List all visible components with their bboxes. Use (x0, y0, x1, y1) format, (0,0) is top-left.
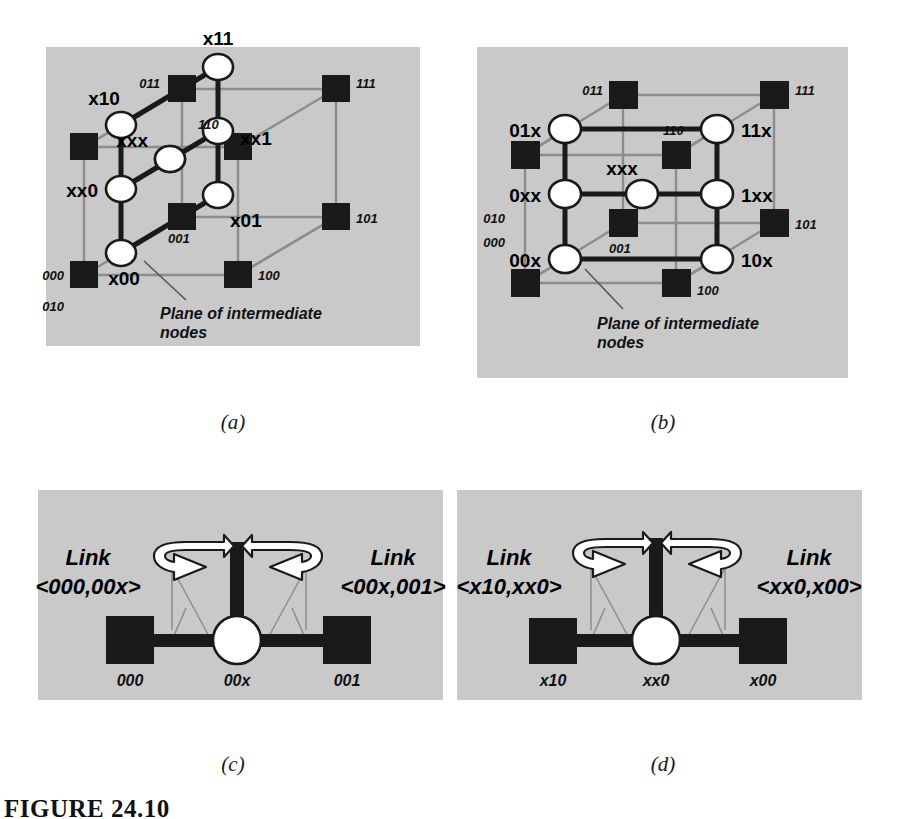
label-011: 011 (139, 76, 160, 91)
intermediate-nodes-b (549, 115, 733, 273)
rotation-arrow-left-icon-d (573, 532, 653, 577)
terminal-node-010 (511, 141, 540, 169)
terminal-node-001 (609, 209, 638, 237)
label-110: 110 (198, 117, 219, 132)
link-name-right-c: <00x,001> (340, 574, 445, 599)
terminal-node-000 (70, 261, 98, 288)
label-001: 001 (609, 241, 631, 256)
plane-note-leader-a (144, 261, 186, 300)
label-01x: 01x (509, 120, 541, 141)
label-111: 111 (356, 76, 376, 91)
intermediate-node-00x (549, 245, 581, 273)
panel-c-diagram: Link <000,00x> Link <00x,001> 000 00x 00… (38, 490, 443, 700)
link-name-right-d: <xx0,x00> (756, 574, 861, 599)
node-label-right-d: x00 (749, 672, 777, 689)
node-label-right-c: 001 (334, 672, 361, 689)
intermediate-node-xxx-top (155, 146, 185, 172)
label-010: 010 (42, 299, 64, 314)
plane-note-line1-a: Plane of intermediate (160, 305, 322, 322)
label-000: 000 (483, 235, 505, 250)
intermediate-node-01x (549, 115, 581, 143)
terminal-node-left-d (529, 618, 577, 664)
panel-c: Link <000,00x> Link <00x,001> 000 00x 00… (38, 490, 443, 700)
plane-note-line2-a: nodes (160, 324, 207, 341)
label-101: 101 (356, 211, 378, 226)
panel-d-diagram: Link <x10,xx0> Link <xx0,x00> x10 xx0 x0… (457, 490, 862, 700)
label-10x: 10x (741, 250, 773, 271)
label-000: 000 (42, 268, 64, 283)
intermediate-node-xxx (626, 180, 658, 208)
link-title-right-d: Link (786, 545, 833, 570)
terminal-node-101 (760, 209, 789, 237)
subcaption-c: (c) (203, 752, 263, 777)
node-label-left-c: 000 (117, 672, 144, 689)
terminal-node-right-c (323, 616, 371, 664)
label-1xx: 1xx (741, 185, 773, 206)
label-100: 100 (697, 283, 719, 298)
figure-caption: FIGURE 24.10 (4, 795, 170, 819)
link-name-left-c: <000,00x> (35, 574, 140, 599)
intermediate-node-0xx (549, 180, 581, 208)
intermediate-node-x11 (203, 54, 233, 80)
label-100: 100 (258, 268, 280, 283)
intermediate-node-center-d (632, 616, 680, 664)
panel-a: x11 x10 xx1 xxx xx0 x01 x00 011 111 110 … (46, 47, 420, 346)
panel-d: Link <x10,xx0> Link <xx0,x00> x10 xx0 x0… (457, 490, 862, 700)
label-xx0: xx0 (66, 180, 98, 201)
link-title-left-d: Link (486, 545, 533, 570)
intermediate-node-10x (701, 245, 733, 273)
intermediate-node-11x (701, 115, 733, 143)
label-010: 010 (483, 211, 505, 226)
node-label-center-c: 00x (224, 672, 252, 689)
terminal-node-111 (760, 81, 789, 109)
terminal-node-left-c (106, 616, 154, 664)
label-011: 011 (582, 83, 603, 98)
label-001: 001 (168, 231, 190, 246)
label-110: 110 (663, 123, 684, 138)
subcaption-d: (d) (633, 752, 693, 777)
terminal-node-001 (168, 203, 196, 230)
label-xx1: xx1 (240, 128, 272, 149)
subcaption-b: (b) (633, 410, 693, 435)
plane-note-line2-b: nodes (597, 334, 644, 351)
terminal-node-010 (70, 133, 98, 160)
intermediate-node-x01 (203, 182, 233, 208)
node-label-left-d: x10 (539, 672, 567, 689)
rotation-arrow-right-icon-d (661, 532, 741, 577)
terminal-node-111 (322, 75, 350, 102)
label-x00: x00 (108, 268, 140, 289)
intermediate-node-xx0 (106, 176, 136, 202)
rotation-arrow-right-icon-c (242, 535, 322, 580)
label-xxx: xxx (606, 158, 638, 179)
intermediate-node-center-c (213, 616, 261, 664)
label-0xx: 0xx (509, 185, 541, 206)
label-00x: 00x (509, 250, 541, 271)
rotation-arrow-left-icon-c (154, 535, 234, 580)
label-111: 111 (795, 83, 815, 98)
link-name-left-d: <x10,xx0> (456, 574, 561, 599)
link-title-right-c: Link (370, 545, 417, 570)
terminal-node-right-d (739, 618, 787, 664)
node-label-center-d: xx0 (642, 672, 670, 689)
plane-note-leader-b (585, 269, 623, 309)
terminal-node-011 (168, 75, 196, 102)
terminal-node-000 (511, 269, 540, 297)
intermediate-node-1xx (701, 180, 733, 208)
label-11x: 11x (741, 120, 772, 141)
terminal-node-101 (322, 203, 350, 230)
label-101: 101 (795, 217, 817, 232)
label-xxx: xxx (116, 130, 148, 151)
terminal-node-100 (224, 261, 252, 288)
panel-a-diagram: x11 x10 xx1 xxx xx0 x01 x00 011 111 110 … (46, 47, 420, 346)
link-title-left-c: Link (65, 545, 112, 570)
figure-root: x11 x10 xx1 xxx xx0 x01 x00 011 111 110 … (0, 0, 897, 819)
plane-note-line1-b: Plane of intermediate (597, 315, 759, 332)
subcaption-a: (a) (203, 410, 263, 435)
panel-b-diagram: 01x 11x 0xx xxx 1xx 00x 10x 011 111 110 … (477, 47, 848, 378)
label-x11: x11 (203, 28, 234, 49)
label-x10: x10 (88, 88, 120, 109)
intermediate-node-x00 (106, 240, 136, 266)
panel-b: 01x 11x 0xx xxx 1xx 00x 10x 011 111 110 … (477, 47, 848, 378)
terminal-node-110 (662, 141, 691, 169)
terminal-node-100 (662, 269, 691, 297)
